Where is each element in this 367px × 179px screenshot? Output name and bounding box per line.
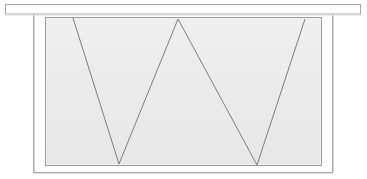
web-panel-group: [46, 18, 322, 166]
bottom-rail-group: [33, 173, 333, 174]
top-flange-group: [6, 5, 362, 16]
left-stem-group: [34, 13, 35, 173]
right-stem-group: [333, 13, 334, 173]
web-panel-shading: [46, 18, 322, 166]
truss-diagram-svg: [0, 0, 367, 179]
diagram-canvas: [0, 0, 367, 179]
